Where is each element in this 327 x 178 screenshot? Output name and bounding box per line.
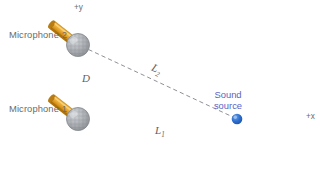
diagram-canvas bbox=[0, 0, 327, 178]
distance-l1-subscript: 1 bbox=[161, 131, 165, 139]
distance-l2-dashed-line bbox=[89, 50, 235, 118]
x-axis-label: +x bbox=[306, 112, 315, 121]
sound-source-label-line1: Sound bbox=[214, 89, 242, 100]
separation-distance-label: D bbox=[82, 72, 90, 84]
sound-source-diagram: Microphone 2 Microphone 1 +y +x D L1 L2 … bbox=[0, 0, 327, 178]
sound-source-label-line2: source bbox=[214, 100, 242, 111]
microphone-2-label: Microphone 2 bbox=[9, 30, 67, 41]
microphone-1-label: Microphone 1 bbox=[9, 104, 67, 115]
sound-source-dot-highlight bbox=[234, 116, 237, 119]
sound-source-dot bbox=[232, 114, 243, 125]
distance-l1-label: L1 bbox=[155, 124, 165, 139]
y-axis-label: +y bbox=[74, 3, 83, 12]
separation-distance-symbol: D bbox=[82, 72, 90, 84]
sound-source-label: Sound source bbox=[214, 89, 242, 111]
